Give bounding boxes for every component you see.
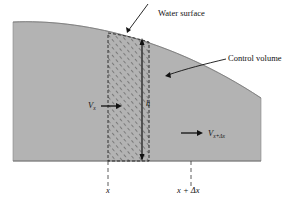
x-plus-dx-position-label: x + Δx (176, 185, 200, 195)
water-surface-label: Water surface (158, 8, 205, 18)
water-surface-callout (126, 4, 148, 33)
x-position-label: x (105, 185, 110, 195)
control-volume-label: Control volume (228, 53, 282, 63)
depth-label: h (146, 99, 150, 108)
control-volume-diagram: h Water surface Control volume Vx Vx+Δx … (0, 0, 299, 207)
control-volume (108, 33, 149, 161)
